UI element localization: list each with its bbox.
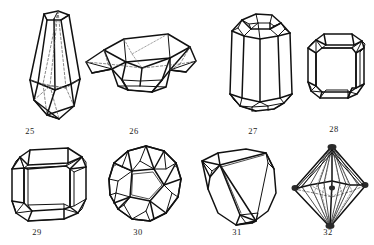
crystal-plate: 25 (0, 0, 374, 245)
figure-29 (6, 143, 94, 229)
figure-32-caption: 32 (308, 228, 348, 237)
figure-31-drawing (196, 143, 286, 231)
figure-27-drawing (218, 6, 298, 124)
figure-27-caption: 27 (233, 127, 273, 136)
figure-26 (82, 28, 197, 108)
figure-27 (218, 6, 298, 124)
figure-28 (302, 26, 372, 110)
figure-29-drawing (6, 143, 94, 229)
figure-26-caption: 26 (114, 127, 154, 136)
figure-31-caption: 31 (217, 228, 257, 237)
figure-26-drawing (82, 28, 197, 108)
figure-30-caption: 30 (118, 228, 158, 237)
figure-30-drawing (102, 141, 188, 231)
figure-32-drawing (288, 141, 372, 233)
figure-30 (102, 141, 188, 231)
figure-28-drawing (302, 26, 372, 110)
figure-29-caption: 29 (17, 228, 57, 237)
figure-31 (196, 143, 286, 231)
figure-25-caption: 25 (10, 127, 50, 136)
figure-32 (288, 141, 372, 233)
figure-28-caption: 28 (314, 125, 354, 134)
